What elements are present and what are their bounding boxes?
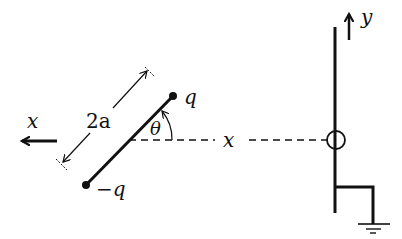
positive-charge-dot [169,92,177,100]
grounded-conductor [327,27,373,224]
ground-icon [358,224,390,233]
angle-label: θ [150,118,161,139]
negative-charge-dot [82,181,90,189]
y-axis-label: y [360,5,373,29]
x-axis-label: x [27,109,38,133]
distance-label: x [223,128,234,152]
angle-arc-icon [162,111,172,140]
dipole-diagram: x 2a q −q θ x y [0,0,402,239]
negative-charge-label: −q [96,177,126,201]
length-label: 2a [86,109,111,133]
positive-charge-label: q [184,85,197,109]
